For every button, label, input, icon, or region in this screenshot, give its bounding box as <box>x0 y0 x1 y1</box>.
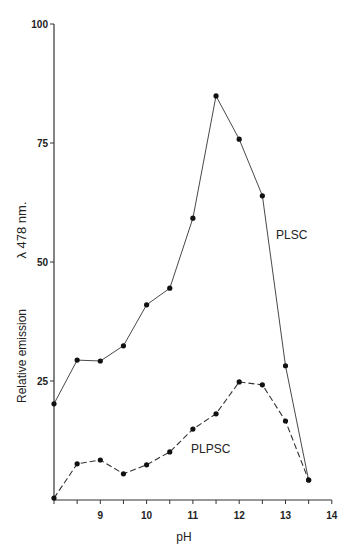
data-point <box>144 462 149 467</box>
data-point <box>51 401 56 406</box>
data-point <box>283 363 288 368</box>
x-tick-label: 12 <box>234 510 246 521</box>
data-point <box>190 216 195 221</box>
y-axis-title-wavelength: λ 478 nm. <box>14 201 29 258</box>
data-point <box>75 357 80 362</box>
x-axis-title: pH <box>176 530 191 544</box>
x-tick-label: 13 <box>280 510 292 521</box>
y-tick-label: 50 <box>37 257 49 268</box>
data-point <box>121 471 126 476</box>
y-tick-label: 25 <box>37 376 49 387</box>
y-tick-label: 75 <box>37 138 49 149</box>
x-tick-label: 9 <box>98 510 104 521</box>
y-axis: 255075100 <box>31 19 54 501</box>
data-point <box>306 477 311 482</box>
data-point <box>121 343 126 348</box>
data-point <box>283 418 288 423</box>
data-point <box>260 382 265 387</box>
series-plsc <box>51 93 311 482</box>
data-point <box>190 426 195 431</box>
y-axis-title: Relative emission <box>15 309 29 403</box>
plpsc-label: PLPSC <box>191 442 231 456</box>
series-line <box>54 382 309 498</box>
x-axis: 91011121314 <box>54 500 338 521</box>
data-point <box>213 411 218 416</box>
plsc-label: PLSC <box>276 228 308 242</box>
data-point <box>167 449 172 454</box>
data-point <box>98 358 103 363</box>
series-line <box>54 96 309 480</box>
y-tick-label: 100 <box>31 19 48 30</box>
data-point <box>98 457 103 462</box>
x-tick-label: 14 <box>326 510 338 521</box>
series-plpsc <box>51 379 311 500</box>
data-point <box>237 379 242 384</box>
data-point <box>237 137 242 142</box>
x-tick-label: 11 <box>188 510 199 521</box>
data-point <box>75 461 80 466</box>
data-point <box>213 93 218 98</box>
relative-emission-chart: 255075100 91011121314 PLSC PLPSC pH Rela… <box>0 0 353 551</box>
data-point <box>167 286 172 291</box>
x-tick-label: 10 <box>141 510 153 521</box>
data-point <box>51 495 56 500</box>
data-point <box>144 302 149 307</box>
data-point <box>260 193 265 198</box>
